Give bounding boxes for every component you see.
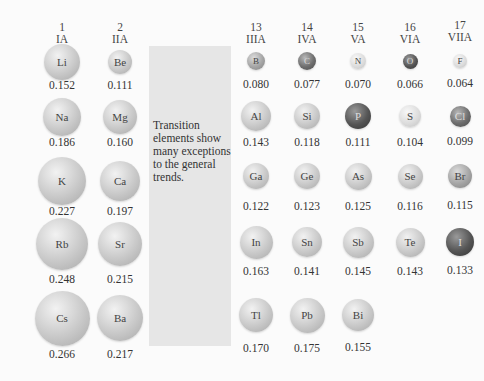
atom-sphere-rb: Rb bbox=[36, 218, 88, 270]
transition-elements-panel bbox=[149, 46, 231, 346]
element-symbol: Br bbox=[455, 170, 466, 182]
atomic-radius-value: 0.175 bbox=[282, 342, 332, 354]
atom-sphere-al: Al bbox=[241, 101, 271, 131]
atomic-radius-value: 0.064 bbox=[435, 77, 484, 89]
atom-sphere-bi: Bi bbox=[342, 299, 374, 331]
atomic-radius-value: 0.163 bbox=[231, 265, 281, 277]
element-symbol: Cs bbox=[56, 312, 68, 324]
atomic-radius-value: 0.111 bbox=[333, 136, 383, 148]
atomic-radius-value: 0.122 bbox=[231, 200, 281, 212]
group-header: 15VA bbox=[333, 21, 383, 45]
atomic-radius-value: 0.266 bbox=[37, 348, 87, 360]
group-number: 2 bbox=[95, 21, 145, 33]
atom-sphere-ge: Ge bbox=[294, 163, 320, 189]
group-header: 14IVA bbox=[282, 21, 332, 45]
element-symbol: Na bbox=[56, 111, 69, 123]
atom-sphere-si: Si bbox=[294, 103, 320, 129]
element-symbol: Ge bbox=[301, 170, 314, 182]
atom-sphere-mg: Mg bbox=[103, 100, 137, 134]
element-symbol: B bbox=[253, 56, 259, 66]
group-roman: VIIA bbox=[435, 31, 484, 43]
group-header: 16VIA bbox=[385, 21, 435, 45]
atomic-radius-value: 0.145 bbox=[333, 265, 383, 277]
atom-sphere-i: I bbox=[446, 228, 474, 256]
atom-sphere-na: Na bbox=[43, 98, 81, 136]
element-symbol: Sn bbox=[301, 236, 313, 248]
atom-sphere-b: B bbox=[247, 52, 265, 70]
transition-note: Transition elements show many exceptions… bbox=[153, 119, 235, 184]
element-symbol: Al bbox=[251, 110, 262, 122]
element-symbol: Rb bbox=[56, 238, 69, 250]
atomic-radius-value: 0.217 bbox=[95, 348, 145, 360]
atom-sphere-sr: Sr bbox=[98, 222, 142, 266]
atomic-radius-value: 0.099 bbox=[435, 135, 484, 147]
atomic-radius-value: 0.170 bbox=[231, 342, 281, 354]
group-header: 2IIA bbox=[95, 21, 145, 45]
group-roman: IIA bbox=[95, 33, 145, 45]
group-header: 13IIIA bbox=[231, 21, 281, 45]
element-symbol: Bi bbox=[353, 309, 363, 321]
element-symbol: Ga bbox=[250, 170, 263, 182]
group-number: 17 bbox=[435, 19, 484, 31]
atomic-radius-value: 0.118 bbox=[282, 136, 332, 148]
element-symbol: Li bbox=[57, 56, 67, 68]
atomic-radius-value: 0.104 bbox=[385, 136, 435, 148]
atom-sphere-c: C bbox=[298, 52, 316, 70]
atom-sphere-br: Br bbox=[448, 164, 472, 188]
atom-sphere-s: S bbox=[399, 105, 421, 127]
group-number: 16 bbox=[385, 21, 435, 33]
atomic-radius-value: 0.077 bbox=[282, 78, 332, 90]
atomic-radius-value: 0.115 bbox=[435, 199, 484, 211]
element-symbol: F bbox=[457, 56, 462, 66]
atom-sphere-li: Li bbox=[44, 44, 80, 80]
atom-sphere-tl: Tl bbox=[239, 298, 273, 332]
element-symbol: K bbox=[58, 175, 66, 187]
group-roman: IIIA bbox=[231, 33, 281, 45]
atom-sphere-k: K bbox=[38, 157, 86, 205]
atomic-radius-value: 0.160 bbox=[95, 136, 145, 148]
element-symbol: Ca bbox=[114, 175, 126, 187]
group-roman: VA bbox=[333, 33, 383, 45]
atomic-radius-value: 0.141 bbox=[282, 265, 332, 277]
element-symbol: I bbox=[458, 236, 462, 248]
group-number: 13 bbox=[231, 21, 281, 33]
element-symbol: Be bbox=[114, 56, 126, 68]
element-symbol: Pb bbox=[301, 309, 313, 321]
atomic-radius-value: 0.080 bbox=[231, 78, 281, 90]
element-symbol: P bbox=[355, 110, 361, 122]
atom-sphere-cl: Cl bbox=[450, 106, 471, 127]
atomic-radius-value: 0.125 bbox=[333, 200, 383, 212]
atom-sphere-ga: Ga bbox=[243, 163, 269, 189]
atomic-radius-value: 0.197 bbox=[95, 205, 145, 217]
group-roman: IVA bbox=[282, 33, 332, 45]
element-symbol: Mg bbox=[112, 111, 127, 123]
atomic-radius-value: 0.111 bbox=[95, 79, 145, 91]
element-symbol: Tl bbox=[251, 309, 261, 321]
group-number: 15 bbox=[333, 21, 383, 33]
atomic-radius-value: 0.155 bbox=[333, 341, 383, 353]
atom-sphere-f: F bbox=[453, 54, 467, 68]
element-symbol: C bbox=[304, 56, 310, 66]
group-number: 1 bbox=[37, 21, 87, 33]
atomic-radius-value: 0.123 bbox=[282, 200, 332, 212]
element-symbol: Cl bbox=[455, 110, 465, 122]
atomic-radius-value: 0.116 bbox=[385, 200, 435, 212]
atom-sphere-ca: Ca bbox=[100, 161, 140, 201]
atom-sphere-o: O bbox=[403, 54, 418, 69]
atomic-radius-value: 0.186 bbox=[37, 136, 87, 148]
atom-sphere-cs: Cs bbox=[35, 291, 90, 346]
element-symbol: Sr bbox=[115, 238, 125, 250]
atomic-radius-value: 0.066 bbox=[385, 78, 435, 90]
atom-sphere-sn: Sn bbox=[292, 227, 322, 257]
element-symbol: Te bbox=[405, 236, 416, 248]
atomic-radius-value: 0.152 bbox=[37, 79, 87, 91]
element-symbol: Se bbox=[405, 170, 416, 182]
element-symbol: As bbox=[352, 170, 364, 182]
atom-sphere-n: N bbox=[350, 53, 366, 69]
atomic-radius-value: 0.215 bbox=[95, 273, 145, 285]
atom-sphere-pb: Pb bbox=[290, 298, 325, 333]
atomic-radius-value: 0.248 bbox=[37, 273, 87, 285]
element-symbol: Sb bbox=[352, 236, 364, 248]
element-symbol: In bbox=[251, 236, 260, 248]
atomic-radius-value: 0.133 bbox=[435, 264, 484, 276]
